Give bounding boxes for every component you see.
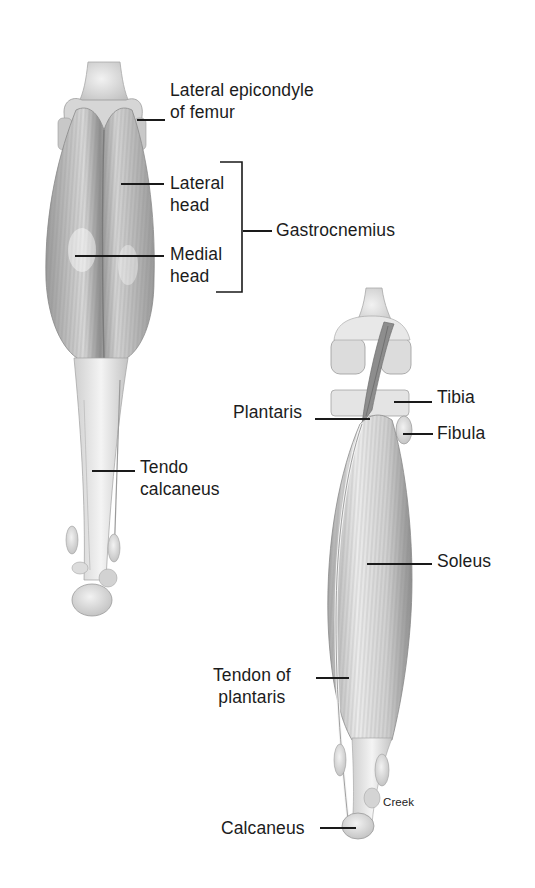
label-line: Calcaneus [221,817,305,839]
calcaneus-bone-left [72,584,112,616]
label-tendo-calcaneus: Tendo calcaneus [140,456,220,500]
label-fibula: Fibula [437,422,485,444]
label-line: head [170,194,224,216]
leader-plantaris [315,418,370,420]
label-tendon-of-plantaris: Tendon of plantaris [213,664,291,708]
label-line: calcaneus [140,478,220,500]
leader-lateral-epicondyle [137,119,165,121]
leader-tibia [394,401,432,403]
label-lateral-head: Lateral head [170,172,224,216]
label-line: Lateral epicondyle [170,79,314,101]
label-line: Gastrocnemius [276,219,395,241]
leg-illustration [0,0,535,888]
leader-medial-head [75,255,164,257]
femur-shaft [78,62,130,104]
leader-tendon-of-plantaris [316,677,349,679]
label-tibia: Tibia [437,386,475,408]
label-line: Tendo [140,456,220,478]
label-gastrocnemius: Gastrocnemius [276,219,395,241]
label-line: head [170,265,222,287]
fibula-head [396,416,412,444]
label-line: of femur [170,101,314,123]
label-lateral-epicondyle: Lateral epicondyle of femur [170,79,314,123]
leader-gastrocnemius [243,230,272,232]
label-line: Plantaris [233,401,302,423]
leader-fibula [403,433,433,435]
label-line: Medial [170,243,222,265]
calcaneus-bone-right [342,813,374,839]
label-line: Tendon of [213,664,291,686]
superficial-leg-view [46,62,154,616]
leader-calcaneus [320,827,356,829]
label-line: Tibia [437,386,475,408]
leader-tendo-calcaneus [92,470,135,472]
label-plantaris: Plantaris [233,401,302,423]
label-line: plantaris [213,686,291,708]
leader-lateral-head [121,183,164,185]
label-line: Soleus [437,550,491,572]
label-soleus: Soleus [437,550,491,572]
artist-credit: Creek [383,795,414,809]
label-calcaneus: Calcaneus [221,817,305,839]
label-medial-head: Medial head [170,243,222,287]
label-line: Fibula [437,422,485,444]
leader-soleus [367,563,432,565]
label-line: Lateral [170,172,224,194]
